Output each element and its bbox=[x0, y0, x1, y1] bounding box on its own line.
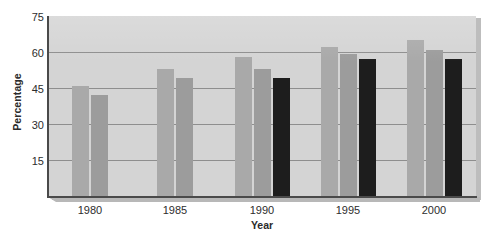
y-tick-15: 15 bbox=[18, 156, 44, 167]
plot-right-edge bbox=[476, 18, 481, 200]
bar-1990-series-3 bbox=[273, 78, 290, 196]
plot-area bbox=[48, 16, 476, 196]
x-tick-1990: 1990 bbox=[232, 204, 292, 216]
bar-1990-series-2 bbox=[254, 69, 271, 196]
y-axis-tick-labels: 75 60 45 30 15 bbox=[14, 0, 44, 236]
bar-1985-series-2 bbox=[176, 78, 193, 196]
bar-2000-series-1 bbox=[407, 40, 424, 196]
bar-1995-series-2 bbox=[340, 54, 357, 196]
bar-1995-series-3 bbox=[359, 59, 376, 196]
x-tick-1995: 1995 bbox=[318, 204, 378, 216]
bar-1995-series-1 bbox=[321, 47, 338, 196]
y-tick-75: 75 bbox=[18, 12, 44, 23]
bar-2000-series-2 bbox=[426, 50, 443, 196]
x-axis-line bbox=[47, 196, 477, 198]
x-tick-2000: 2000 bbox=[404, 204, 464, 216]
y-tick-60: 60 bbox=[18, 48, 44, 59]
bar-1980-series-2 bbox=[91, 95, 108, 196]
x-axis-title: Year bbox=[232, 219, 292, 231]
plot-bottom-edge bbox=[48, 197, 480, 202]
bar-1990-series-1 bbox=[235, 57, 252, 196]
bar-1985-series-1 bbox=[157, 69, 174, 196]
x-tick-1985: 1985 bbox=[145, 204, 205, 216]
bar-2000-series-3 bbox=[445, 59, 462, 196]
y-tick-45: 45 bbox=[18, 84, 44, 95]
bar-1980-series-1 bbox=[72, 86, 89, 196]
bar-chart: Percentage 75 60 45 30 15 1980 1985 1990… bbox=[0, 0, 496, 236]
x-tick-1980: 1980 bbox=[60, 204, 120, 216]
y-axis-line bbox=[47, 16, 49, 197]
y-tick-30: 30 bbox=[18, 120, 44, 131]
